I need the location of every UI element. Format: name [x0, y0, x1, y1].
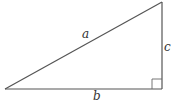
base-label: b: [93, 89, 101, 103]
hypotenuse-label: a: [82, 27, 89, 41]
right-angle-marker: [152, 79, 162, 89]
hypotenuse-side: [5, 2, 162, 89]
height-label: c: [164, 40, 171, 54]
right-triangle-diagram: a b c: [0, 0, 171, 103]
